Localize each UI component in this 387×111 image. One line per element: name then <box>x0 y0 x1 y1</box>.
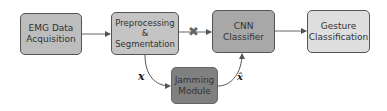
node-preprocessing-segmentation: Preprocessing&Segmentation <box>111 12 179 55</box>
edge-pre-jam <box>145 55 170 86</box>
node-gesture-classification: GestureClassification <box>307 10 370 53</box>
edge-label-x: x <box>138 70 145 83</box>
node-emg-data-acquisition: EMG DataAcquisition <box>20 13 82 55</box>
blocked-cross-icon: ✖ <box>188 24 199 39</box>
node-jamming-module: JammingModule <box>171 67 218 104</box>
edge-label-x-hat: x̂ <box>237 71 243 82</box>
node-cnn-classifier: CNNClassifier <box>212 10 275 53</box>
